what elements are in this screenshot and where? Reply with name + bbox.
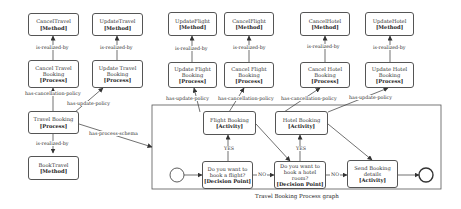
edge-label-has-cancellation-policy: has-cancellation-policy bbox=[217, 96, 275, 101]
cancel-flight-process-node[interactable]: Cancel Flight Booking [Process] bbox=[224, 62, 274, 88]
node-name: Send Booking details bbox=[353, 165, 393, 177]
edge-label-has-cancellation-policy: has-cancellation-policy bbox=[24, 91, 82, 96]
node-type: [Method] bbox=[40, 168, 67, 174]
node-type: [Method] bbox=[179, 24, 206, 30]
update-hotel-method-node[interactable]: UpdateHotel [Method] bbox=[365, 12, 414, 36]
node-name: Cancel Hotel Booking bbox=[306, 66, 344, 78]
edge-label-no: NO bbox=[330, 172, 340, 177]
edge-label-yes: YES bbox=[295, 146, 307, 151]
book-travel-method-node[interactable]: BookTravel [Method] bbox=[28, 156, 79, 180]
edge-label-is-realized-by: is-realized-by bbox=[35, 141, 70, 146]
send-booking-activity-node[interactable]: Send Booking details [Activity] bbox=[347, 160, 398, 188]
diagram-caption: Travel Booking Process graph bbox=[255, 193, 339, 199]
edge-label-is-realized-by: is-realized-by bbox=[372, 45, 407, 50]
node-type: [Method] bbox=[104, 25, 131, 31]
edge-label-has-cancellation-policy: has-cancellation-policy bbox=[280, 96, 338, 101]
hotel-booking-activity-node[interactable]: Hotel Booking [Activity] bbox=[275, 111, 328, 135]
node-name: Cancel Travel Booking bbox=[34, 65, 74, 77]
decision-flight-node[interactable]: Do you want to book a flight? [Decision … bbox=[202, 161, 253, 189]
decision-hotel-node[interactable]: Do you want to book a hotel room? [Decis… bbox=[274, 161, 326, 189]
node-type: [Process] bbox=[40, 123, 67, 129]
node-type: [Method] bbox=[376, 24, 403, 30]
update-flight-process-node[interactable]: Update Flight Booking [Process] bbox=[168, 62, 217, 88]
edge-label-is-realized-by: is-realized-by bbox=[306, 44, 341, 49]
node-type: [Process] bbox=[311, 78, 338, 84]
edge-label-is-realized-by: is-realized-by bbox=[35, 45, 70, 50]
node-type: [Process] bbox=[179, 78, 206, 84]
cancel-hotel-method-node[interactable]: CancelHotel [Method] bbox=[300, 12, 350, 36]
cancel-hotel-process-node[interactable]: Cancel Hotel Booking [Process] bbox=[300, 62, 350, 88]
edge-label-is-realized-by: is-realized-by bbox=[232, 45, 267, 50]
node-name: Update Travel Booking bbox=[98, 65, 138, 77]
edge-label-no: NO bbox=[257, 172, 267, 177]
node-type: [Activity] bbox=[359, 177, 386, 183]
start-node-icon bbox=[170, 168, 184, 182]
edge-label-yes: YES bbox=[223, 146, 235, 151]
update-hotel-process-node[interactable]: Update Hotel Booking [Process] bbox=[365, 62, 414, 88]
edge-label-has-update-policy: has-update-policy bbox=[165, 96, 210, 101]
node-type: [Process] bbox=[40, 77, 67, 83]
node-name: Update Flight Booking bbox=[174, 66, 212, 78]
edge-label-has-update-policy: has-update-policy bbox=[348, 95, 393, 100]
node-type: [Decision Point] bbox=[276, 181, 323, 187]
node-name: Do you want to book a flight? bbox=[206, 166, 250, 178]
update-travel-method-node[interactable]: UpdateTravel [Method] bbox=[92, 13, 143, 36]
node-type: [Process] bbox=[104, 77, 131, 83]
update-flight-method-node[interactable]: UpdateFlight [Method] bbox=[168, 12, 217, 36]
flight-booking-activity-node[interactable]: Flight Booking [Activity] bbox=[203, 111, 256, 135]
node-type: [Method] bbox=[311, 24, 338, 30]
cancel-travel-process-node[interactable]: Cancel Travel Booking [Process] bbox=[28, 60, 79, 88]
edge-label-is-realized-by: is-realized-by bbox=[174, 46, 209, 51]
cancel-travel-method-node[interactable]: CancelTravel [Method] bbox=[28, 13, 79, 36]
node-name: Cancel Flight Booking bbox=[230, 66, 268, 78]
update-travel-process-node[interactable]: Update Travel Booking [Process] bbox=[92, 60, 143, 88]
node-name: Do you want to book a hotel room? bbox=[276, 163, 324, 182]
node-type: [Activity] bbox=[216, 123, 243, 129]
cancel-flight-method-node[interactable]: CancelFlight [Method] bbox=[224, 12, 274, 36]
node-type: [Process] bbox=[376, 78, 403, 84]
node-type: [Method] bbox=[235, 24, 262, 30]
edge-label-is-realized-by: is-realized-by bbox=[99, 45, 134, 50]
travel-booking-process-node[interactable]: Travel Booking [Process] bbox=[28, 111, 79, 134]
node-type: [Activity] bbox=[288, 123, 315, 129]
node-name: Update Hotel Booking bbox=[371, 66, 409, 78]
node-type: [Process] bbox=[235, 78, 262, 84]
edge-label-has-process-schema: has-process-schema bbox=[88, 131, 139, 136]
end-node-icon bbox=[419, 168, 433, 182]
edge-label-has-update-policy: has-update-policy bbox=[66, 101, 111, 106]
node-type: [Method] bbox=[40, 25, 67, 31]
node-type: [Decision Point] bbox=[204, 178, 251, 184]
